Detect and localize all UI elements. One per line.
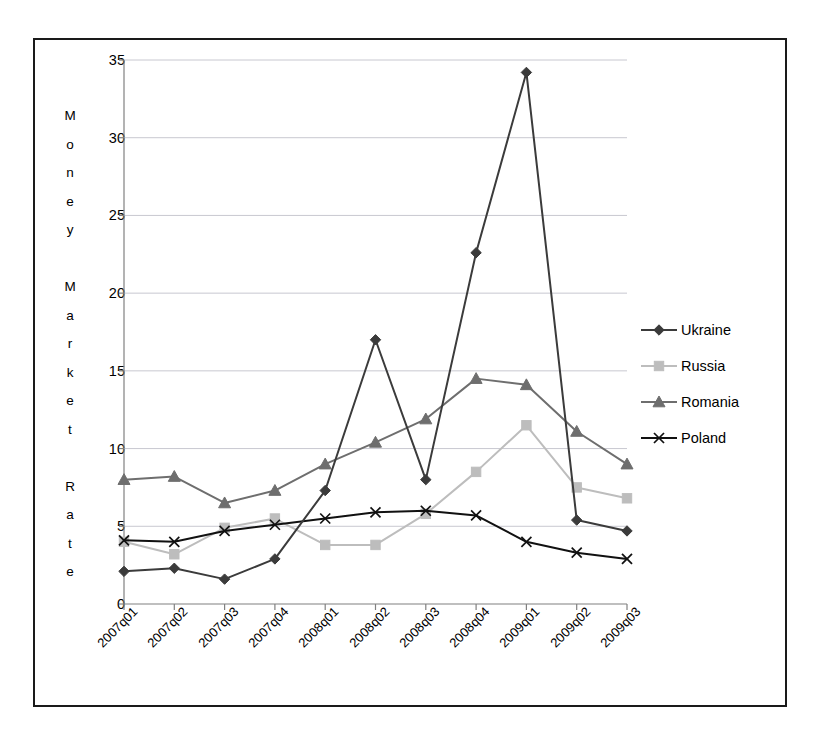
y-axis-title-char: a [59,501,81,530]
series-ukraine-marker-diamond [521,67,531,77]
legend-entry-ukraine[interactable]: Ukraine [640,312,780,348]
legend-swatch-svg [640,322,678,338]
chart-legend: UkraineRussiaRomaniaPoland [640,312,780,456]
plot-svg [124,60,627,604]
legend-label: Poland [678,430,726,446]
legend-marker-romania-icon [640,394,678,410]
legend-marker-square [654,361,663,370]
y-axis-title-char: R [59,473,81,502]
series-romania-marker-triangle [370,436,382,447]
y-axis-title-char: e [59,558,81,587]
series-russia-marker-square [471,467,480,476]
series-line-poland [124,511,627,559]
series-ukraine-marker-diamond [421,474,431,484]
y-axis-title-char: t [59,416,81,445]
y-axis-title: Money Market Rate [59,102,81,587]
legend-swatch-svg [640,430,678,446]
y-axis-title-char: t [59,530,81,559]
y-axis-title-char: M [59,273,81,302]
legend-entry-poland[interactable]: Poland [640,420,780,456]
y-axis-tick-labels: 05101520253035 [81,40,125,705]
series-romania-marker-triangle [621,458,633,469]
legend-entry-romania[interactable]: Romania [640,384,780,420]
series-ukraine-marker-diamond [169,563,179,573]
y-axis-title-char: e [59,387,81,416]
series-ukraine-marker-diamond [622,526,632,536]
legend-label: Ukraine [678,322,731,338]
y-axis-title-gap [59,245,81,274]
y-axis-title-char: r [59,330,81,359]
series-russia-marker-square [371,540,380,549]
y-axis-title-char: e [59,188,81,217]
series-romania-marker-triangle [269,485,281,496]
series-russia-marker-square [622,494,631,503]
series-ukraine-marker-diamond [572,515,582,525]
line-chart: Money Market Rate 05101520253035 2007q01… [35,40,785,705]
y-axis-title-char: M [59,102,81,131]
series-romania-marker-triangle [470,373,482,384]
legend-entry-russia[interactable]: Russia [640,348,780,384]
plot-area [124,60,627,604]
y-axis-title-char: k [59,359,81,388]
series-romania [118,373,633,508]
series-ukraine-marker-diamond [370,335,380,345]
legend-marker-ukraine-icon [640,322,678,338]
series-ukraine-marker-diamond [471,248,481,258]
series-russia-marker-square [119,537,128,546]
legend-marker-diamond [654,325,664,335]
series-russia-marker-square [170,550,179,559]
legend-label: Russia [678,358,725,374]
legend-swatch-svg [640,358,678,374]
y-axis-title-gap [59,444,81,473]
legend-marker-russia-icon [640,358,678,374]
series-russia-marker-square [522,421,531,430]
y-axis-title-char: a [59,302,81,331]
series-ukraine-marker-diamond [219,574,229,584]
series-poland [119,506,632,564]
series-line-ukraine [124,72,627,579]
y-axis-title-char: n [59,159,81,188]
figure-frame: Money Market Rate 05101520253035 2007q01… [33,38,787,707]
legend-label: Romania [678,394,739,410]
legend-marker-poland-icon [640,430,678,446]
legend-swatch-svg [640,394,678,410]
series-russia-marker-square [321,540,330,549]
series-romania-marker-triangle [319,458,331,469]
x-axis-tick-labels: 2007q012007q022007q032007q042008q012008q… [124,604,627,704]
series-ukraine [119,67,632,584]
y-axis-title-char: o [59,131,81,160]
y-axis-title-char: y [59,216,81,245]
